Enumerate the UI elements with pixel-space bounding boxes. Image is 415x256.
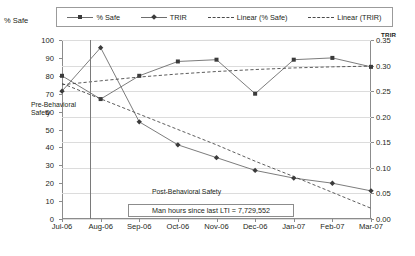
data-point-marker (214, 155, 219, 160)
data-point-marker (99, 97, 103, 101)
data-point-marker (330, 56, 334, 60)
data-point-marker (215, 58, 219, 62)
data-point-marker (330, 181, 335, 186)
series-safe (60, 56, 373, 101)
data-point-marker (253, 92, 257, 96)
safety-performance-chart: % Safe TRIR Linear (% Safe) Linear (TRIR… (0, 0, 415, 256)
data-point-marker (176, 59, 180, 63)
annotation-man-hours-box: Man hours since last LTI = 7,729,552 (128, 204, 294, 217)
data-point-marker (292, 58, 296, 62)
data-series-layer (0, 0, 415, 256)
behavioral-safety-divider (90, 40, 91, 219)
data-point-marker (252, 168, 257, 173)
data-point-marker (137, 119, 142, 124)
data-point-marker (368, 188, 373, 193)
data-point-marker (175, 142, 180, 147)
annotation-post-behavioral-safety: Post-Behavioral Safety (152, 188, 221, 196)
data-point-marker (369, 65, 373, 69)
annotation-pre-behavioral-safety: Pre-Behavioral Safety (31, 101, 79, 118)
series-linear-safe (62, 66, 371, 85)
data-point-marker (60, 74, 64, 78)
